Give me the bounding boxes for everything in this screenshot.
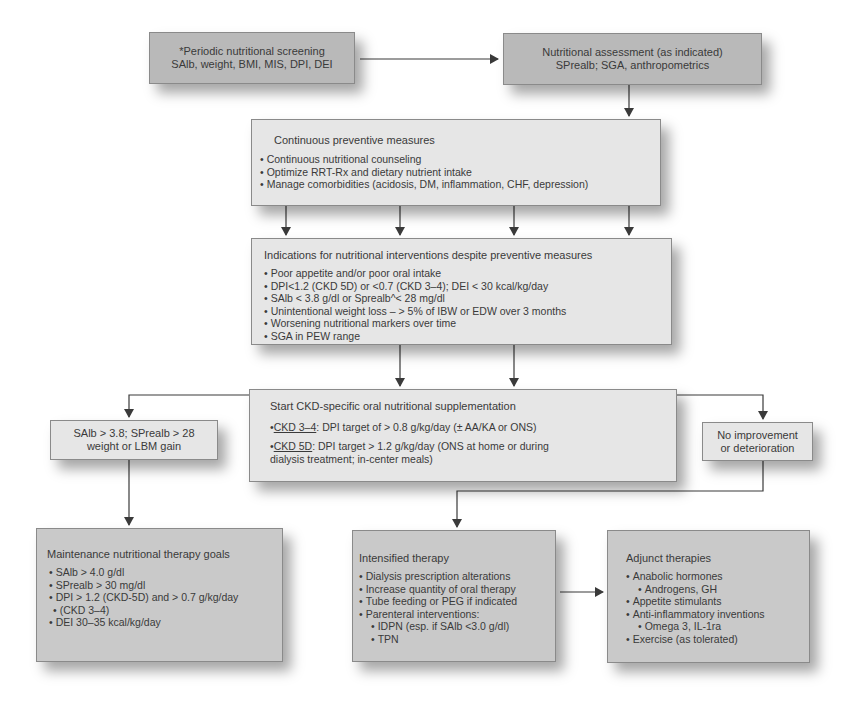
indications-item: SGA in PEW range bbox=[264, 330, 566, 343]
supplementation-title: Start CKD-specific oral nutritional supp… bbox=[270, 400, 516, 413]
maintenance-item-continuation: (CKD 3–4) bbox=[49, 604, 238, 617]
indications-item: SAlb < 3.8 g/dl or Sprealb^< 28 mg/dl bbox=[264, 292, 566, 305]
ckd5d-label: CKD 5D bbox=[274, 440, 313, 452]
improvement-line2: weight or LBM gain bbox=[87, 440, 181, 453]
assessment-parameters: SPrealb; SGA, anthropometrics bbox=[556, 59, 709, 72]
intensified-list: Dialysis prescription alterations Increa… bbox=[359, 570, 517, 645]
maintenance-item: SAlb > 4.0 g/dl bbox=[49, 566, 238, 579]
intensified-item: Parenteral interventions: bbox=[359, 608, 517, 621]
adjunct-list: Anabolic hormones Androgens, GH Appetite… bbox=[626, 570, 765, 645]
maintenance-item: DPI > 1.2 (CKD-5D) and > 0.7 g/kg/day bbox=[49, 591, 238, 604]
supplementation-ckd34: •CKD 3–4: DPI target of > 0.8 g/kg/day (… bbox=[270, 421, 537, 434]
preventive-title: Continuous preventive measures bbox=[274, 134, 435, 147]
maintenance-title: Maintenance nutritional therapy goals bbox=[47, 548, 230, 561]
intensified-item: Tube feeding or PEG if indicated bbox=[359, 595, 517, 608]
screening-title: *Periodic nutritional screening bbox=[179, 45, 325, 58]
supplementation-ckd5d: •CKD 5D: DPI target > 1.2 g/kg/day (ONS … bbox=[270, 440, 549, 466]
intensified-therapy-box: Intensified therapy Dialysis prescriptio… bbox=[352, 530, 556, 662]
ckd34-text: : DPI target of > 0.8 g/kg/day (± AA/KA … bbox=[316, 421, 536, 433]
intensified-item: Increase quantity of oral therapy bbox=[359, 583, 517, 596]
preventive-list: Continuous nutritional counseling Optimi… bbox=[260, 153, 588, 191]
screening-parameters: SAlb, weight, BMI, MIS, DPI, DEI bbox=[171, 58, 332, 71]
no-improvement-line1: No improvement bbox=[717, 429, 798, 442]
ckd5d-continuation: dialysis treatment; in-center meals) bbox=[270, 453, 549, 466]
improvement-box: SAlb > 3.8; SPrealb > 28 weight or LBM g… bbox=[50, 420, 218, 460]
adjunct-item: Anti-inflammatory inventions bbox=[626, 608, 765, 621]
maintenance-item: DEI 30–35 kcal/kg/day bbox=[49, 616, 238, 629]
adjunct-item: Appetite stimulants bbox=[626, 595, 765, 608]
maintenance-list: SAlb > 4.0 g/dl SPrealb > 30 mg/dl DPI >… bbox=[49, 566, 238, 629]
supplementation-box: Start CKD-specific oral nutritional supp… bbox=[249, 389, 677, 482]
assessment-title: Nutritional assessment (as indicated) bbox=[542, 46, 722, 59]
indications-item: DPI<1.2 (CKD 5D) or <0.7 (CKD 3–4); DEI … bbox=[264, 280, 566, 293]
adjunct-title: Adjunct therapies bbox=[626, 552, 711, 565]
ckd34-label: CKD 3–4 bbox=[274, 421, 317, 433]
indications-item: Worsening nutritional markers over time bbox=[264, 317, 566, 330]
indications-item: Poor appetite and/or poor oral intake bbox=[264, 267, 566, 280]
maintenance-item: SPrealb > 30 mg/dl bbox=[49, 579, 238, 592]
no-improvement-box: No improvement or deterioration bbox=[702, 422, 813, 461]
preventive-measures-box: Continuous preventive measures Continuou… bbox=[251, 119, 661, 206]
adjunct-subitem: Omega 3, IL-1ra bbox=[626, 620, 765, 633]
intensified-item: Dialysis prescription alterations bbox=[359, 570, 517, 583]
adjunct-item: Exercise (as tolerated) bbox=[626, 633, 765, 646]
no-improvement-line2: or deterioration bbox=[721, 442, 795, 455]
indications-item: Unintentional weight loss – > 5% of IBW … bbox=[264, 305, 566, 318]
indications-list: Poor appetite and/or poor oral intake DP… bbox=[264, 267, 566, 342]
preventive-item: Continuous nutritional counseling bbox=[260, 153, 588, 166]
adjunct-therapies-box: Adjunct therapies Anabolic hormones Andr… bbox=[607, 530, 810, 663]
ckd5d-text: : DPI target > 1.2 g/kg/day (ONS at home… bbox=[312, 440, 549, 452]
adjunct-item: Anabolic hormones bbox=[626, 570, 765, 583]
preventive-item: Optimize RRT-Rx and dietary nutrient int… bbox=[260, 166, 588, 179]
intensified-subitem: IDPN (esp. if SAlb <3.0 g/dl) bbox=[359, 620, 517, 633]
screening-box: *Periodic nutritional screening SAlb, we… bbox=[149, 32, 355, 84]
indications-title: Indications for nutritional intervention… bbox=[264, 249, 592, 262]
intensified-subitem: TPN bbox=[359, 633, 517, 646]
assessment-box: Nutritional assessment (as indicated) SP… bbox=[503, 33, 762, 85]
preventive-item: Manage comorbidities (acidosis, DM, infl… bbox=[260, 178, 588, 191]
adjunct-subitem: Androgens, GH bbox=[626, 583, 765, 596]
intensified-title: Intensified therapy bbox=[359, 552, 449, 565]
improvement-line1: SAlb > 3.8; SPrealb > 28 bbox=[73, 427, 194, 440]
indications-box: Indications for nutritional intervention… bbox=[251, 238, 672, 345]
maintenance-box: Maintenance nutritional therapy goals SA… bbox=[36, 528, 283, 662]
